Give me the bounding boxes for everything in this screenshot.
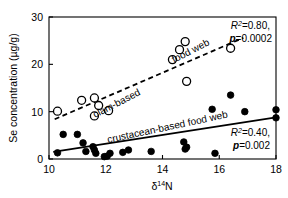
y-axis-title: Se concentration (µg/g): [7, 33, 19, 142]
y-tick-label: 30: [31, 11, 43, 23]
x-axis-tick-labels: 1012141618: [43, 163, 282, 175]
y-tick-label: 20: [31, 58, 43, 70]
scatter-plot: 1012141618 0102030 clam-based food web c…: [0, 0, 288, 198]
data-point-filled: [273, 106, 280, 113]
data-point-filled: [80, 140, 87, 147]
data-point-filled: [241, 108, 248, 115]
data-point-filled: [60, 131, 67, 138]
x-tick-label: 18: [270, 163, 282, 175]
x-tick-label: 12: [100, 163, 112, 175]
crust-p-value: =0.002: [239, 140, 270, 151]
x-axis-title-element: N: [165, 180, 173, 192]
x-tick-label: 16: [213, 163, 225, 175]
crust-r2-value: =0.40,: [242, 127, 270, 138]
x-tick-label: 10: [43, 163, 55, 175]
data-point-filled: [212, 150, 219, 157]
x-axis-title: δ14N: [151, 180, 172, 192]
crust-r2-symbol: R: [231, 127, 238, 138]
data-point-filled: [183, 144, 190, 151]
figure-container: 1012141618 0102030 clam-based food web c…: [0, 0, 288, 198]
y-tick-label: 10: [31, 106, 43, 118]
svg-text:R2=0.40,: R2=0.40,: [231, 127, 270, 139]
data-point-filled: [74, 131, 81, 138]
data-point-open: [90, 94, 98, 102]
data-point-open: [78, 96, 86, 104]
y-axis-tick-labels: 0102030: [31, 11, 43, 165]
clam-p-symbol: p: [228, 33, 235, 44]
data-point-filled: [93, 150, 100, 157]
clam-r2-value: =0.80,: [242, 20, 270, 31]
data-point-open: [183, 77, 191, 85]
data-point-filled: [54, 150, 61, 157]
data-point-filled: [273, 115, 280, 122]
data-point-filled: [148, 148, 155, 155]
clam-p-value: =0.0002: [236, 33, 273, 44]
x-tick-label: 14: [157, 163, 169, 175]
data-point-filled: [125, 147, 132, 154]
data-point-filled: [227, 92, 234, 99]
data-point-open: [227, 44, 235, 52]
svg-text:p=0.0002: p=0.0002: [228, 33, 272, 44]
clam-r2-symbol: R: [231, 20, 238, 31]
data-point-open: [181, 38, 189, 46]
y-tick-label: 0: [37, 153, 43, 165]
x-axis-title-superscript: 14: [157, 180, 165, 187]
data-point-filled: [83, 148, 90, 155]
data-point-open: [54, 107, 62, 115]
svg-text:R2=0.80,: R2=0.80,: [231, 20, 270, 32]
svg-text:p=0.002: p=0.002: [232, 140, 270, 151]
data-point-filled: [107, 150, 114, 157]
crust-p-symbol: p: [232, 140, 239, 151]
